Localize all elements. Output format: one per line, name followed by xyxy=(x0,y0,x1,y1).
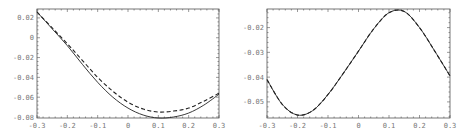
plot-frame xyxy=(37,9,219,118)
y-tick-label: 0 xyxy=(30,34,34,42)
y-tick-label: 0.02 xyxy=(17,14,34,22)
x-tick-label: 0 xyxy=(356,122,360,130)
x-tick-label: -0.3 xyxy=(29,122,46,130)
x-tick-label: 0 xyxy=(126,122,130,130)
x-tick-label: 0.2 xyxy=(413,122,426,130)
y-tick-label: -0.08 xyxy=(13,114,34,122)
solid-curve xyxy=(37,12,219,118)
y-tick-label: -0.04 xyxy=(13,74,34,82)
right-chart: -0.3-0.2-0.100.10.20.3-0.02-0.03-0.04-0.… xyxy=(232,0,464,140)
x-tick-label: -0.3 xyxy=(259,122,276,130)
right-chart-plot: -0.3-0.2-0.100.10.20.3-0.02-0.03-0.04-0.… xyxy=(232,0,464,140)
x-tick-label: 0.1 xyxy=(383,122,396,130)
x-tick-label: -0.1 xyxy=(320,122,337,130)
x-tick-label: -0.2 xyxy=(289,122,306,130)
left-chart-plot: -0.3-0.2-0.100.10.20.30.020-0.02-0.04-0.… xyxy=(0,0,232,140)
y-tick-label: -0.02 xyxy=(243,24,264,32)
y-tick-label: -0.05 xyxy=(243,98,264,106)
left-chart: -0.3-0.2-0.100.10.20.30.020-0.02-0.04-0.… xyxy=(0,0,232,140)
x-tick-label: 0.1 xyxy=(152,122,165,130)
x-tick-label: -0.2 xyxy=(59,122,76,130)
plot-frame xyxy=(267,9,450,118)
x-tick-label: -0.1 xyxy=(89,122,106,130)
dashed-curve xyxy=(267,10,450,115)
y-tick-label: -0.06 xyxy=(13,94,34,102)
x-tick-label: 0.3 xyxy=(213,122,226,130)
dashed-curve xyxy=(37,12,219,112)
solid-curve xyxy=(267,10,450,115)
y-tick-label: -0.03 xyxy=(243,49,264,57)
y-tick-label: -0.04 xyxy=(243,74,264,82)
x-tick-label: 0.2 xyxy=(182,122,195,130)
x-tick-label: 0.3 xyxy=(444,122,457,130)
y-tick-label: -0.02 xyxy=(13,54,34,62)
